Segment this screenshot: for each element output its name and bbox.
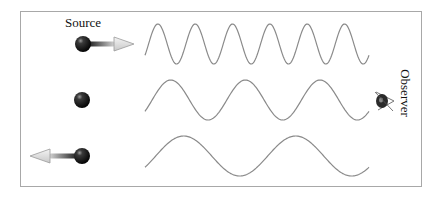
arrow-right-icon [114,37,134,51]
arrow-shaft [88,42,114,47]
sphere-icon [75,36,91,52]
arrow-shaft [50,154,78,159]
wave-medium-wavelength [145,80,369,120]
wave-long-wavelength [145,136,369,176]
row-source-receding [30,136,369,176]
doppler-diagram [0,0,442,201]
sphere-icon [74,148,90,164]
row-source-approaching [75,24,369,64]
observer-label: Observer [399,69,412,117]
wave-short-wavelength [145,24,369,64]
eye-icon [375,92,394,111]
source-label: Source [65,16,101,29]
sphere-icon [74,92,90,108]
row-source-stationary [74,80,369,120]
arrow-left-icon [30,149,50,163]
